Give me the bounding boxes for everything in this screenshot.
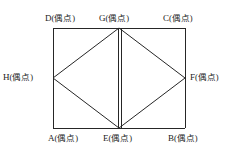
vertex-label-E: E(偶点) xyxy=(103,133,132,144)
rectangle-outline xyxy=(53,28,185,128)
vertex-note-C: (偶点) xyxy=(169,13,193,23)
geometry-figure: D(偶点) G(偶点) C(偶点) H(偶点) F(偶点) A(偶点) E(偶点… xyxy=(0,0,235,158)
vertex-label-F: F(偶点) xyxy=(190,72,219,83)
vertex-label-B: B(偶点) xyxy=(168,133,198,144)
vertex-note-H: (偶点) xyxy=(10,72,34,82)
vertex-note-G: (偶点) xyxy=(106,13,130,23)
vertex-label-C: C(偶点) xyxy=(163,13,193,24)
vertex-note-F: (偶点) xyxy=(195,72,219,82)
edge-E-H xyxy=(53,78,119,128)
inscribed-diamond xyxy=(53,28,185,128)
edge-H-G xyxy=(53,28,119,78)
vertex-label-H: H(偶点) xyxy=(3,72,33,83)
vertex-note-E: (偶点) xyxy=(109,133,133,143)
vertex-label-G: G(偶点) xyxy=(99,13,129,24)
vertex-note-D: (偶点) xyxy=(52,13,76,23)
vertex-label-D: D(偶点) xyxy=(45,13,75,24)
vertex-note-B: (偶点) xyxy=(174,133,198,143)
edge-G-F xyxy=(119,28,185,78)
vertex-note-A: (偶点) xyxy=(55,133,79,143)
vertex-label-A: A(偶点) xyxy=(48,133,78,144)
edge-F-E xyxy=(119,78,185,128)
edge-G-E-double xyxy=(118,28,121,128)
